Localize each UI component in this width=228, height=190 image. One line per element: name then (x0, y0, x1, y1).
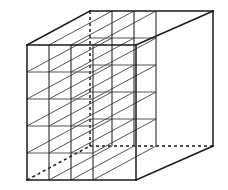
box-rack-diagram: Rack storage box diagram Oblique-project… (0, 0, 228, 190)
figure-root: Rack storage box diagram Oblique-project… (0, 0, 228, 190)
